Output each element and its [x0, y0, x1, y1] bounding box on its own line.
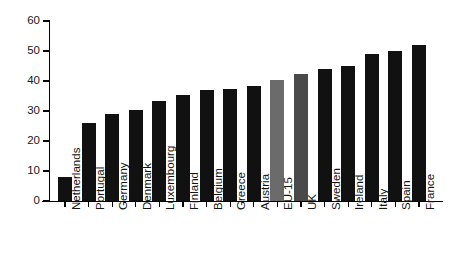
y-tick-label-50: 50: [0, 45, 40, 56]
x-tick-mark-6: [206, 202, 207, 207]
y-axis-line: [49, 20, 50, 202]
x-label-france: France: [424, 174, 437, 210]
x-label-eu-15: EU-15: [282, 177, 295, 210]
y-tick-label-60: 60: [0, 15, 40, 26]
x-tick-mark-14: [395, 202, 396, 207]
x-label-netherlands: Netherlands: [70, 147, 83, 210]
y-tick-label-0: 0: [0, 195, 40, 206]
bar-spain: [388, 51, 402, 201]
y-tick-mark-60: [43, 20, 49, 21]
x-tick-mark-15: [418, 202, 419, 207]
y-tick-mark-10: [43, 170, 49, 171]
y-tick-label-30: 30: [0, 105, 40, 116]
x-tick-mark-3: [135, 202, 136, 207]
y-tick-label-20: 20: [0, 135, 40, 146]
x-label-uk: UK: [306, 194, 319, 210]
x-label-germany: Germany: [117, 162, 130, 210]
bar-uk: [294, 74, 308, 202]
x-label-greece: Greece: [235, 172, 248, 210]
y-tick-mark-0: [43, 200, 49, 201]
y-tick-mark-20: [43, 140, 49, 141]
x-label-belgium: Belgium: [212, 168, 225, 210]
x-tick-mark-10: [300, 202, 301, 207]
x-tick-mark-5: [182, 202, 183, 207]
x-tick-mark-11: [324, 202, 325, 207]
y-tick-mark-30: [43, 110, 49, 111]
x-tick-mark-4: [159, 202, 160, 207]
x-label-sweden: Sweden: [330, 168, 343, 210]
x-label-italy: Italy: [377, 189, 390, 210]
x-label-luxembourg: Luxembourg: [164, 146, 177, 210]
x-label-denmark: Denmark: [141, 163, 154, 210]
x-tick-mark-9: [277, 202, 278, 207]
x-tick-mark-8: [253, 202, 254, 207]
x-tick-mark-1: [88, 202, 89, 207]
x-tick-mark-2: [112, 202, 113, 207]
bar-italy: [365, 54, 379, 201]
x-label-finland: Finland: [188, 172, 201, 210]
x-label-portugal: Portugal: [94, 167, 107, 210]
x-label-ireland: Ireland: [353, 174, 366, 210]
y-tick-label-10: 10: [0, 165, 40, 176]
x-tick-mark-12: [348, 202, 349, 207]
x-label-austria: Austria: [259, 174, 272, 210]
x-tick-mark-0: [64, 202, 65, 207]
x-tick-mark-13: [371, 202, 372, 207]
y-tick-mark-40: [43, 80, 49, 81]
y-tick-mark-50: [43, 50, 49, 51]
bar-chart: Percent (%) 0102030405060 NetherlandsPor…: [0, 0, 456, 279]
x-tick-mark-7: [230, 202, 231, 207]
y-tick-label-40: 40: [0, 75, 40, 86]
x-label-spain: Spain: [400, 180, 413, 210]
